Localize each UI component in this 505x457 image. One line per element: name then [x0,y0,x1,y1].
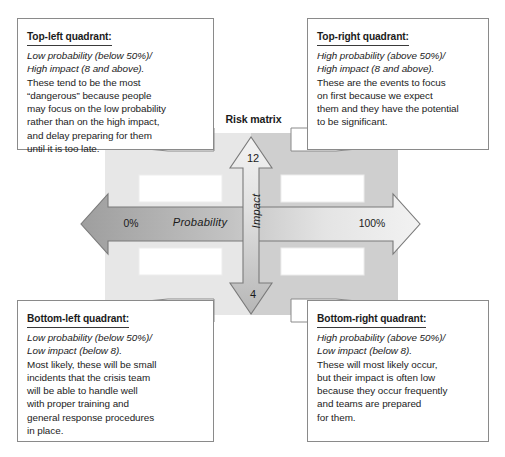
callout-line: to be significant. [317,115,479,128]
callout-line: in place. [27,424,204,437]
callout-bottom-left: Bottom-left quadrant: Low probability (b… [17,300,214,442]
callout-top-right: Top-right quadrant: High probability (ab… [307,18,489,150]
callout-line: and delay preparing for them [27,129,204,142]
callout-line: Low probability (below 50%)/ [27,49,204,62]
callout-top-right-body: High probability (above 50%)/High impact… [317,49,479,129]
callout-line: general response procedures [27,411,204,424]
callout-line: because they occur frequently [317,384,479,397]
callout-top-left: Top-left quadrant: Low probability (belo… [17,18,214,150]
callout-bottom-right: Bottom-right quadrant: High probability … [307,300,489,442]
placeholder-top-right [281,175,364,202]
placeholder-top-left [139,175,222,202]
callout-line: on first because we expect [317,89,479,102]
callout-line: These tend to be the most [27,76,204,89]
callout-top-left-heading: Top-left quadrant: [27,30,112,46]
callout-line: “dangerous” because people [27,89,204,102]
callout-line: Most likely, these will be small [27,358,204,371]
callout-bottom-left-body: Low probability (below 50%)/Low impact (… [27,331,204,437]
callout-line: High impact (8 and above). [27,62,204,75]
placeholder-bottom-right [281,248,364,275]
callout-line: rather than on the high impact, [27,115,204,128]
callout-line: them and they have the potential [317,102,479,115]
callout-line: until it is too late. [27,142,204,155]
callout-line: but their impact is often low [317,371,479,384]
callout-line: High probability (above 50%)/ [317,331,479,344]
placeholder-bottom-left [139,248,222,275]
callout-line: These will most likely occur, [317,358,479,371]
callout-line: High impact (8 and above). [317,62,479,75]
callout-line: High probability (above 50%)/ [317,49,479,62]
callout-line: may focus on the low probability [27,102,204,115]
risk-matrix-diagram: Risk matrix 12 4 0% 100% Probability Imp… [0,0,505,457]
callout-bottom-right-body: High probability (above 50%)/Low impact … [317,331,479,424]
callout-line: and teams are prepared [317,397,479,410]
callout-bottom-right-heading: Bottom-right quadrant: [317,312,426,328]
callout-line: Low impact (below 8). [27,344,204,357]
callout-line: with proper training and [27,397,204,410]
callout-line: Low probability (below 50%)/ [27,331,204,344]
callout-bottom-left-heading: Bottom-left quadrant: [27,312,129,328]
callout-top-right-heading: Top-right quadrant: [317,30,409,46]
callout-line: These are the events to focus [317,76,479,89]
callout-line: Low impact (below 8). [317,344,479,357]
callout-line: for them. [317,411,479,424]
callout-line: incidents that the crisis team [27,371,204,384]
callout-top-left-body: Low probability (below 50%)/High impact … [27,49,204,155]
callout-line: will be able to handle well [27,384,204,397]
